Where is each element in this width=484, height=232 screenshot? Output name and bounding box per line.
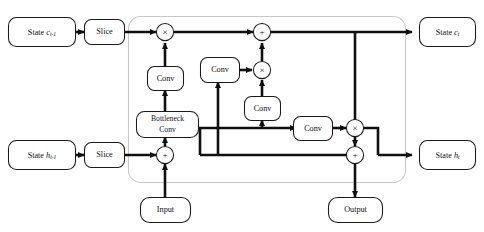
- add-cell-symbol: +: [259, 27, 264, 37]
- svg-text:State ct: State ct: [436, 27, 460, 37]
- mult-output-symbol: ×: [352, 123, 357, 133]
- wire-mult-output-to-state-h: [364, 128, 378, 155]
- node-conv-forget[interactable]: Conv: [148, 67, 184, 91]
- node-conv-candidate[interactable]: Conv: [201, 58, 240, 83]
- slice-bottom-label: Slice: [96, 150, 113, 159]
- state-h-prev-label: State: [28, 150, 45, 159]
- mult-forget-symbol: ×: [162, 27, 167, 37]
- conv-output-gate-label: Conv: [304, 124, 323, 133]
- node-conv-output-gate[interactable]: Conv: [294, 117, 333, 141]
- add-hidden-out-symbol: +: [352, 150, 357, 160]
- node-state-h-prev[interactable]: State ht-1: [9, 141, 76, 170]
- node-output[interactable]: Output: [329, 198, 383, 223]
- state-c-t-label: State: [436, 27, 453, 36]
- node-input[interactable]: Input: [141, 198, 191, 223]
- conv-candidate-label: Conv: [211, 65, 230, 74]
- state-c-prev-label: State: [28, 27, 45, 36]
- state-h-prev-sub: t-1: [50, 154, 56, 160]
- state-h-t-label: State: [435, 150, 452, 159]
- op-mult-input[interactable]: ×: [253, 61, 270, 78]
- op-add-cell[interactable]: +: [253, 23, 270, 40]
- op-add-hidden-in[interactable]: +: [156, 146, 173, 163]
- node-bottleneck-conv[interactable]: Bottleneck Conv: [137, 112, 199, 138]
- op-mult-output[interactable]: ×: [346, 119, 363, 136]
- node-slice-top[interactable]: Slice: [85, 20, 125, 45]
- wire-group: [75, 32, 412, 197]
- node-state-h-t[interactable]: State ht: [420, 141, 476, 170]
- op-add-hidden-out[interactable]: +: [346, 146, 363, 163]
- conv-forget-label: Conv: [157, 74, 176, 83]
- mult-input-symbol: ×: [259, 65, 264, 75]
- diagram-canvas: State ct-1 Slice × + State ct Co: [0, 0, 484, 232]
- state-c-prev-sub: t-1: [50, 31, 56, 37]
- conv-input-gate-label: Conv: [254, 104, 273, 113]
- add-hidden-in-symbol: +: [162, 150, 167, 160]
- node-state-c-t[interactable]: State ct: [420, 18, 476, 47]
- slice-top-label: Slice: [96, 27, 113, 36]
- node-conv-input-gate[interactable]: Conv: [245, 97, 281, 121]
- op-mult-forget[interactable]: ×: [156, 23, 173, 40]
- output-label: Output: [344, 205, 367, 214]
- input-label: Input: [157, 205, 175, 214]
- diagram-svg: State ct-1 Slice × + State ct Co: [0, 0, 484, 232]
- svg-text:State ht: State ht: [435, 150, 460, 160]
- bottleneck-conv-line1: Bottleneck: [151, 114, 184, 123]
- node-state-c-prev[interactable]: State ct-1: [9, 18, 76, 47]
- bottleneck-conv-line2: Conv: [159, 125, 176, 134]
- node-slice-bottom[interactable]: Slice: [85, 143, 125, 168]
